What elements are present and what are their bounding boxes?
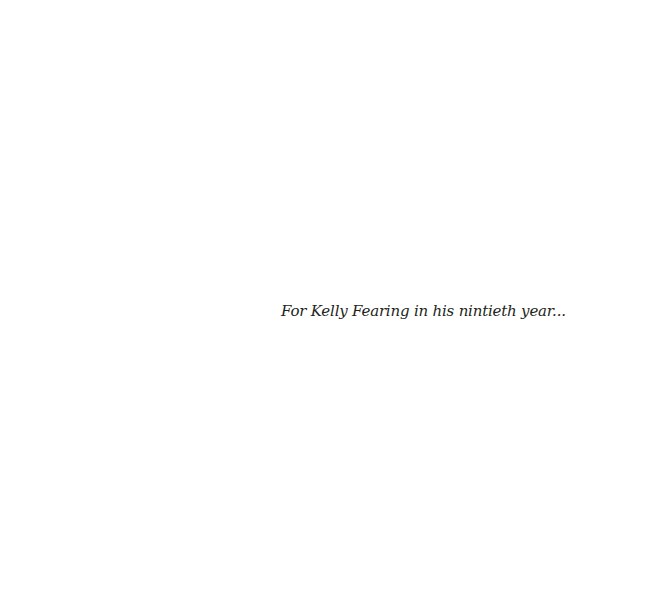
book-page: For Kelly Fearing in his nintieth year..… bbox=[0, 0, 669, 598]
dedication-text: For Kelly Fearing in his nintieth year..… bbox=[281, 300, 566, 322]
